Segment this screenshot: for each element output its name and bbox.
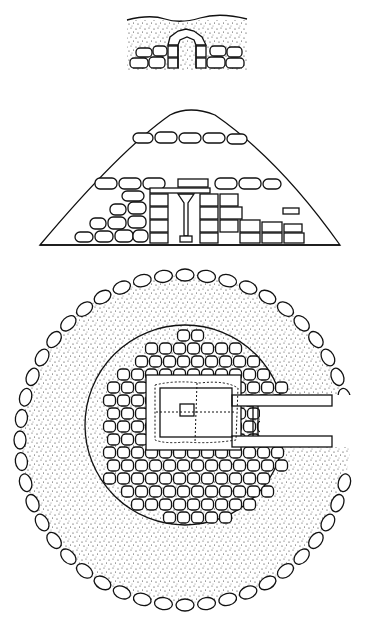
tomb-drawing	[0, 0, 370, 620]
cross-section	[40, 110, 340, 245]
entrance-elevation	[127, 15, 247, 70]
pillar	[178, 194, 194, 236]
left-dry-stone	[75, 191, 148, 242]
stone-layer-upper	[133, 132, 247, 144]
chamber	[150, 188, 304, 243]
ground-plan	[14, 269, 370, 611]
